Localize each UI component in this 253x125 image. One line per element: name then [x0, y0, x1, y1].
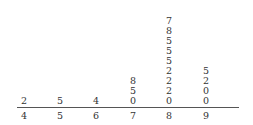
leaf: 0: [130, 96, 136, 106]
leaf: 4: [93, 96, 99, 106]
leaf-column-4: 2: [14, 96, 34, 106]
stem-label: 6: [86, 110, 106, 121]
leaf-column-6: 4: [86, 96, 106, 106]
leaf-column-7: 0 5 8: [123, 76, 143, 106]
stem-label: 9: [196, 110, 216, 121]
leaf-column-9: 0 0 2 5: [196, 66, 216, 106]
stem-and-leaf-plot: 2 5 4 0 5 8 0 2 2 2 5 5 5 8 7 0 0 2 5 4 …: [0, 0, 253, 125]
stem-label: 5: [50, 110, 70, 121]
leaf: 0: [166, 96, 172, 106]
stem-label: 4: [14, 110, 34, 121]
stem-label: 7: [123, 110, 143, 121]
leaf: 2: [21, 96, 27, 106]
stem-divider-line: [17, 107, 239, 108]
stem-label: 8: [159, 110, 179, 121]
leaf: 0: [203, 96, 209, 106]
leaf-column-5: 5: [50, 96, 70, 106]
leaf-column-8: 0 2 2 2 5 5 5 8 7: [159, 16, 179, 106]
leaf: 5: [57, 96, 63, 106]
